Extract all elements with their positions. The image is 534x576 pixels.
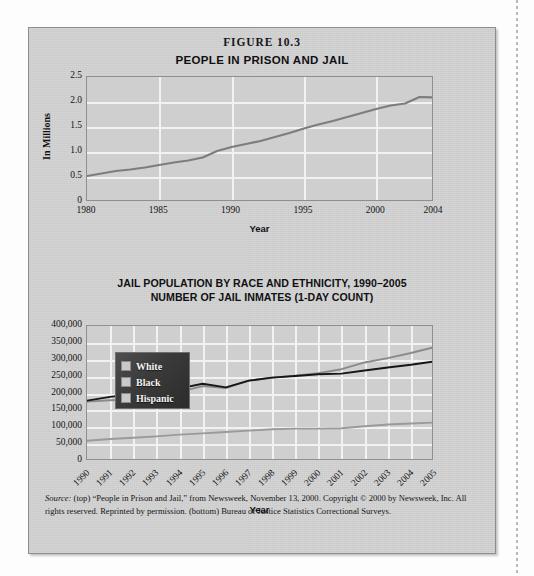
x-tick-label: 2005 [412, 467, 439, 494]
source-label: Source: [45, 493, 71, 503]
x-tick-label: 2002 [342, 467, 369, 494]
x-tick-label: 1996 [203, 467, 230, 494]
bottom-chart-legend: WhiteBlackHispanic [115, 352, 190, 409]
y-tick-label: 0.5 [30, 170, 82, 180]
y-tick-label: 150,000 [30, 403, 82, 413]
x-tick-label: 1980 [66, 205, 106, 215]
y-tick-label: 2.0 [30, 95, 82, 105]
y-tick-label: 50,000 [30, 437, 82, 447]
x-tick-label: 2000 [296, 467, 323, 494]
source-note: Source: (top) “People in Prison and Jail… [45, 492, 479, 517]
x-tick-label: 2001 [319, 467, 346, 494]
top-chart-plot-area [86, 76, 433, 201]
legend-item-hispanic: Hispanic [121, 390, 189, 406]
bottom-chart-title-line2: NUMBER OF JAIL INMATES (1-DAY COUNT) [29, 291, 495, 305]
top-chart-title: PEOPLE IN PRISON AND JAIL [29, 54, 495, 66]
x-tick-label: 1990 [65, 467, 92, 494]
series-lines [87, 77, 433, 201]
top-chart-y-axis-title: In Millions [41, 106, 52, 166]
y-tick-label: 0 [30, 195, 82, 205]
x-tick-label: 2004 [413, 205, 453, 215]
legend-item-black: Black [121, 374, 189, 390]
x-tick-label: 2003 [365, 467, 392, 494]
x-tick-label: 1998 [250, 467, 277, 494]
x-tick-label: 1994 [157, 467, 184, 494]
figure-page: FIGURE 10.3 PEOPLE IN PRISON AND JAIL 2.… [0, 0, 534, 576]
y-tick-label: 300,000 [30, 353, 82, 363]
x-tick-label: 2004 [389, 467, 416, 494]
y-tick-label: 2.5 [30, 70, 82, 80]
x-tick-label: 1990 [211, 205, 251, 215]
page-margin-rule [516, 0, 518, 576]
legend-swatch-icon [121, 393, 131, 403]
legend-swatch-icon [121, 377, 131, 387]
y-tick-label: 0 [30, 454, 82, 464]
legend-item-label: White [136, 361, 162, 372]
figure-panel: FIGURE 10.3 PEOPLE IN PRISON AND JAIL 2.… [28, 27, 496, 554]
x-tick-label: 1999 [273, 467, 300, 494]
x-tick-label: 1993 [134, 467, 161, 494]
y-tick-label: 1.5 [30, 120, 82, 130]
x-tick-label: 1995 [283, 205, 323, 215]
legend-item-label: Hispanic [136, 393, 174, 404]
x-tick-label: 1995 [180, 467, 207, 494]
x-tick-label: 1997 [227, 467, 254, 494]
bottom-chart-title: JAIL POPULATION BY RACE AND ETHNICITY, 1… [29, 277, 495, 304]
x-tick-label: 1985 [138, 205, 178, 215]
source-text: (top) “People in Prison and Jail,” from … [45, 493, 467, 516]
figure-number: FIGURE 10.3 [29, 36, 495, 48]
x-tick-label: 1991 [88, 467, 115, 494]
y-tick-label: 250,000 [30, 370, 82, 380]
bottom-chart-title-line1: JAIL POPULATION BY RACE AND ETHNICITY, 1… [29, 277, 495, 291]
top-chart-x-axis-title: Year [86, 223, 433, 234]
legend-item-white: White [121, 358, 189, 374]
y-tick-label: 350,000 [30, 336, 82, 346]
legend-item-label: Black [136, 377, 160, 388]
series-line-total people in prison and jail [87, 97, 433, 176]
series-line-hispanic [87, 423, 433, 441]
x-tick-label: 2000 [355, 205, 395, 215]
y-tick-label: 400,000 [30, 319, 82, 329]
y-tick-label: 100,000 [30, 420, 82, 430]
legend-swatch-icon [121, 361, 131, 371]
y-tick-label: 200,000 [30, 387, 82, 397]
x-tick-label: 1992 [111, 467, 138, 494]
y-tick-label: 1.0 [30, 145, 82, 155]
